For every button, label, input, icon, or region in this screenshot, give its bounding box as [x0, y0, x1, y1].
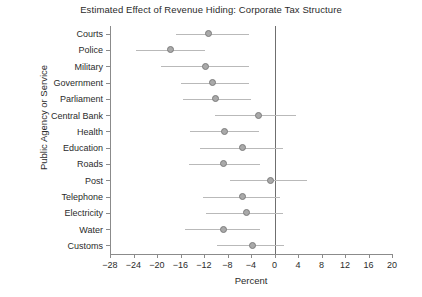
x-axis-tick: [392, 254, 393, 258]
x-axis-tick: [322, 254, 323, 258]
y-axis-tick-label: Health: [77, 124, 103, 140]
x-axis-tick: [134, 254, 135, 258]
y-axis-tick-label: Post: [85, 173, 103, 189]
x-axis-tick: [369, 254, 370, 258]
data-row: Military: [110, 59, 392, 75]
chart-title: Estimated Effect of Revenue Hiding: Corp…: [0, 4, 422, 15]
y-axis-tick: [106, 131, 110, 132]
x-axis-tick: [345, 254, 346, 258]
data-row: Water: [110, 222, 392, 238]
y-axis-tick: [106, 245, 110, 246]
data-point-marker: [267, 177, 274, 184]
data-row: Roads: [110, 156, 392, 172]
x-axis-tick-label: 20: [377, 260, 407, 270]
y-axis-tick-label: Parliament: [60, 91, 103, 107]
data-point-marker: [209, 79, 216, 86]
data-row: Courts: [110, 26, 392, 42]
y-axis-tick-label: Courts: [76, 26, 103, 42]
data-row: Government: [110, 75, 392, 91]
y-axis-tick: [106, 213, 110, 214]
data-row: Telephone: [110, 189, 392, 205]
y-axis-tick-label: Military: [75, 59, 104, 75]
data-row: Post: [110, 173, 392, 189]
data-point-marker: [243, 209, 250, 216]
y-axis-tick-label: Telephone: [61, 189, 103, 205]
y-axis-tick: [106, 83, 110, 84]
data-row: Parliament: [110, 91, 392, 107]
chart-container: Estimated Effect of Revenue Hiding: Corp…: [0, 0, 422, 297]
y-axis-tick: [106, 115, 110, 116]
plot-area: CourtsPoliceMilitaryGovernmentParliament…: [110, 26, 392, 254]
y-axis-tick: [106, 34, 110, 35]
data-point-marker: [249, 242, 256, 249]
y-axis-tick-label: Government: [53, 75, 103, 91]
y-axis-tick: [106, 229, 110, 230]
y-axis-tick: [106, 180, 110, 181]
data-point-marker: [220, 160, 227, 167]
y-axis-tick-label: Roads: [77, 156, 103, 172]
confidence-interval-bar: [176, 34, 248, 35]
data-point-marker: [239, 144, 246, 151]
data-row: Customs: [110, 238, 392, 254]
data-point-marker: [221, 128, 228, 135]
y-axis-tick: [106, 197, 110, 198]
x-axis-tick: [110, 254, 111, 258]
y-axis-tick: [106, 50, 110, 51]
data-point-marker: [167, 46, 174, 53]
data-row: Police: [110, 42, 392, 58]
y-axis-tick: [106, 66, 110, 67]
y-axis-tick-label: Police: [78, 42, 103, 58]
y-axis-tick: [106, 164, 110, 165]
y-axis-tick-label: Customs: [67, 238, 103, 254]
y-axis-title: Public Agency or Service: [38, 28, 49, 208]
x-axis-tick: [275, 254, 276, 258]
data-point-marker: [220, 226, 227, 233]
x-axis-tick: [228, 254, 229, 258]
y-axis-tick: [106, 99, 110, 100]
data-row: Central Bank: [110, 108, 392, 124]
x-axis-tick: [181, 254, 182, 258]
y-axis-tick-label: Electricity: [64, 205, 103, 221]
data-point-marker: [212, 95, 219, 102]
x-axis-tick: [251, 254, 252, 258]
x-axis-tick: [298, 254, 299, 258]
data-row: Education: [110, 140, 392, 156]
data-point-marker: [205, 30, 212, 37]
data-row: Health: [110, 124, 392, 140]
x-axis-tick: [157, 254, 158, 258]
x-axis-title: Percent: [110, 275, 392, 286]
y-axis-tick-label: Water: [79, 222, 103, 238]
data-point-marker: [239, 193, 246, 200]
data-point-marker: [255, 112, 262, 119]
y-axis-tick-label: Central Bank: [51, 108, 103, 124]
data-row: Electricity: [110, 205, 392, 221]
data-point-marker: [202, 63, 209, 70]
y-axis-tick-label: Education: [63, 140, 103, 156]
x-axis-tick: [204, 254, 205, 258]
y-axis-tick: [106, 148, 110, 149]
